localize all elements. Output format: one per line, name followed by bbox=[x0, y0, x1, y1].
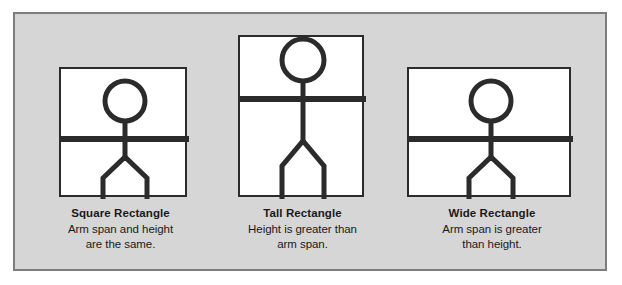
caption-square-rectangle: Square Rectangle Arm span and height are… bbox=[33, 206, 208, 251]
stick-figure-icon bbox=[238, 35, 368, 201]
caption-tall-rectangle: Tall Rectangle Height is greater than ar… bbox=[215, 206, 390, 251]
figure-tall-rectangle: Tall Rectangle Height is greater than ar… bbox=[215, 14, 390, 269]
caption-line-1: Arm span and height bbox=[33, 221, 208, 236]
caption-line-1: Height is greater than bbox=[215, 221, 390, 236]
caption-title: Square Rectangle bbox=[33, 206, 208, 221]
diagram-root: Square Rectangle Arm span and height are… bbox=[0, 0, 622, 285]
figure-wide-rectangle: Wide Rectangle Arm span is greater than … bbox=[397, 14, 587, 269]
caption-line-2: are the same. bbox=[33, 236, 208, 251]
caption-line-2: arm span. bbox=[215, 236, 390, 251]
stick-figure-icon bbox=[407, 67, 575, 201]
diagram-panel: Square Rectangle Arm span and height are… bbox=[13, 12, 607, 271]
tall-rectangle-box bbox=[238, 35, 364, 197]
wide-rectangle-box bbox=[407, 67, 571, 197]
figure-square-rectangle: Square Rectangle Arm span and height are… bbox=[33, 14, 208, 269]
stick-figure-icon bbox=[59, 67, 191, 201]
caption-title: Wide Rectangle bbox=[397, 206, 587, 221]
square-rectangle-box bbox=[59, 67, 187, 197]
caption-line-2: than height. bbox=[397, 236, 587, 251]
caption-title: Tall Rectangle bbox=[215, 206, 390, 221]
caption-line-1: Arm span is greater bbox=[397, 221, 587, 236]
caption-wide-rectangle: Wide Rectangle Arm span is greater than … bbox=[397, 206, 587, 251]
figure-box-slot bbox=[33, 14, 208, 204]
figure-box-slot bbox=[215, 14, 390, 204]
figure-box-slot bbox=[397, 14, 587, 204]
